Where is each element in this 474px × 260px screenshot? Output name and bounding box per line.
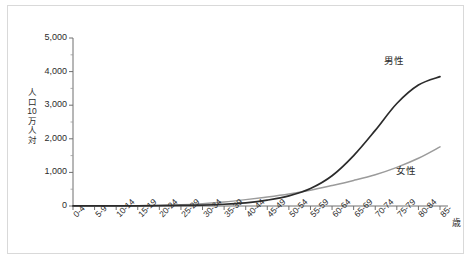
chart-figure: 人口10万人対 01,0002,0003,0004,0005,000 0-45-…	[0, 0, 474, 260]
chart-svg	[0, 0, 474, 260]
plot-area: 人口10万人対 01,0002,0003,0004,0005,000 0-45-…	[0, 0, 474, 260]
series-line-male	[73, 77, 440, 206]
y-tick-label: 0	[23, 200, 67, 210]
female-series-label: 女性	[396, 163, 416, 177]
x-axis-unit-label: 歳	[452, 216, 461, 229]
y-tick-label: 1,000	[23, 166, 67, 176]
y-tick-label: 4,000	[23, 66, 67, 76]
y-axis-ticks	[69, 38, 73, 206]
y-tick-label: 5,000	[23, 32, 67, 42]
y-tick-label: 3,000	[23, 99, 67, 109]
male-series-label: 男性	[384, 53, 404, 67]
y-tick-label: 2,000	[23, 133, 67, 143]
